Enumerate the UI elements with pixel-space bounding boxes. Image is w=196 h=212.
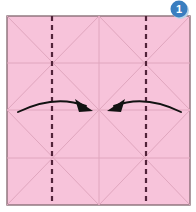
- origami-canvas: 1: [0, 0, 196, 212]
- step-badge-label: 1: [176, 3, 182, 15]
- origami-step-diagram: 1: [0, 0, 196, 212]
- crease-pattern: [7, 16, 190, 205]
